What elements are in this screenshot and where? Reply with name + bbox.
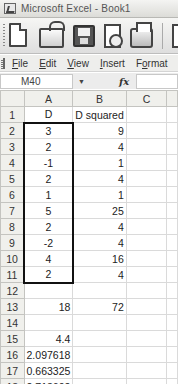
cell-a6[interactable]: 1	[24, 187, 73, 203]
cell-a13[interactable]: 18	[24, 299, 73, 315]
cell-a10[interactable]: 4	[24, 251, 73, 267]
cell-a16[interactable]: 2.097618	[24, 347, 73, 363]
cell-b14[interactable]	[73, 315, 126, 331]
excel-app-icon[interactable]	[4, 3, 16, 14]
cell-b17[interactable]	[73, 363, 126, 379]
cell-a7[interactable]: 5	[24, 203, 73, 219]
column-header-d-partial[interactable]	[167, 91, 178, 107]
cell-d2[interactable]	[167, 123, 178, 139]
row-header[interactable]: 13	[1, 299, 25, 315]
row-header[interactable]: 2	[1, 123, 25, 139]
cell-d15[interactable]	[167, 331, 178, 347]
cell-d8[interactable]	[167, 219, 178, 235]
cell-d4[interactable]	[167, 155, 178, 171]
row-header[interactable]: 4	[1, 155, 25, 171]
menu-format[interactable]: Format	[136, 58, 168, 69]
row-header[interactable]: 17	[1, 363, 25, 379]
row-header[interactable]: 5	[1, 171, 25, 187]
cell-c15[interactable]	[126, 331, 167, 347]
cell-a1[interactable]: D	[24, 107, 73, 123]
cell-b9[interactable]: 4	[73, 235, 126, 251]
row-header[interactable]: 6	[1, 187, 25, 203]
cell-b7[interactable]: 25	[73, 203, 126, 219]
row-header[interactable]: 7	[1, 203, 25, 219]
open-folder-icon[interactable]	[39, 28, 64, 48]
menu-file[interactable]: File	[12, 58, 28, 69]
row-header[interactable]: 8	[1, 219, 25, 235]
cell-c9[interactable]	[126, 235, 167, 251]
cell-a17[interactable]: 0.663325	[24, 363, 73, 379]
cell-d5[interactable]	[167, 171, 178, 187]
cell-d3[interactable]	[167, 139, 178, 155]
cell-b10[interactable]: 16	[73, 251, 126, 267]
cell-c3[interactable]	[126, 139, 167, 155]
cell-c12[interactable]	[126, 283, 167, 299]
cell-a4[interactable]: -1	[24, 155, 73, 171]
column-header-b[interactable]: B	[73, 91, 126, 107]
cell-c5[interactable]	[126, 171, 167, 187]
cell-a8[interactable]: 2	[24, 219, 73, 235]
cell-b1[interactable]: D squared	[73, 107, 126, 123]
cell-c8[interactable]	[126, 219, 167, 235]
cell-c16[interactable]	[126, 347, 167, 363]
cell-d16[interactable]	[167, 347, 178, 363]
cell-a9[interactable]: -2	[24, 235, 73, 251]
toolbar-grip-handle[interactable]	[3, 24, 5, 48]
cell-c4[interactable]	[126, 155, 167, 171]
cell-b3[interactable]: 4	[73, 139, 126, 155]
row-header[interactable]: 11	[1, 267, 25, 283]
print-icon[interactable]	[130, 28, 153, 48]
cell-b13[interactable]: 72	[73, 299, 126, 315]
cell-b2[interactable]: 9	[73, 123, 126, 139]
cell-c13[interactable]	[126, 299, 167, 315]
cell-a15[interactable]: 4.4	[24, 331, 73, 347]
cell-b11[interactable]: 4	[73, 267, 126, 283]
row-header[interactable]: 1	[1, 107, 25, 123]
workbook-control-icon[interactable]	[3, 58, 5, 69]
formula-input[interactable]	[136, 74, 178, 89]
cell-d18[interactable]	[167, 379, 178, 384]
cell-a2[interactable]: 3	[24, 123, 73, 139]
row-header[interactable]: 3	[1, 139, 25, 155]
row-header[interactable]: 14	[1, 315, 25, 331]
cell-a18[interactable]: 2.713602	[24, 379, 73, 384]
cell-b8[interactable]: 4	[73, 219, 126, 235]
cell-a5[interactable]: 2	[24, 171, 73, 187]
cell-d17[interactable]	[167, 363, 178, 379]
save-disk-icon[interactable]	[73, 25, 94, 47]
cell-b12[interactable]	[73, 283, 126, 299]
row-header[interactable]: 16	[1, 347, 25, 363]
cell-c14[interactable]	[126, 315, 167, 331]
cell-c10[interactable]	[126, 251, 167, 267]
cell-a11[interactable]: 2	[24, 267, 73, 283]
menu-edit[interactable]: Edit	[39, 58, 56, 69]
cell-c7[interactable]	[126, 203, 167, 219]
cell-d11[interactable]	[167, 267, 178, 283]
row-header[interactable]: 18	[1, 379, 25, 384]
cell-b4[interactable]: 1	[73, 155, 126, 171]
cell-b5[interactable]: 4	[73, 171, 126, 187]
row-header[interactable]: 10	[1, 251, 25, 267]
print-preview-icon[interactable]	[104, 24, 121, 48]
column-header-c[interactable]: C	[126, 91, 167, 107]
cell-d13[interactable]	[167, 299, 178, 315]
cell-b16[interactable]	[73, 347, 126, 363]
cell-c2[interactable]	[126, 123, 167, 139]
menu-view[interactable]: View	[67, 58, 89, 69]
cell-b6[interactable]: 1	[73, 187, 126, 203]
cell-d9[interactable]	[167, 235, 178, 251]
cell-c11[interactable]	[126, 267, 167, 283]
select-all-corner[interactable]	[1, 91, 25, 107]
cell-a12[interactable]	[24, 283, 73, 299]
insert-function-icon[interactable]: fx	[119, 76, 129, 87]
cell-d6[interactable]	[167, 187, 178, 203]
cell-b15[interactable]	[73, 331, 126, 347]
row-header[interactable]: 9	[1, 235, 25, 251]
cell-d1[interactable]	[167, 107, 178, 123]
cell-c17[interactable]	[126, 363, 167, 379]
column-header-a[interactable]: A	[24, 91, 73, 107]
cell-d10[interactable]	[167, 251, 178, 267]
cell-c6[interactable]	[126, 187, 167, 203]
name-box[interactable]: M40	[0, 74, 73, 89]
row-header[interactable]: 15	[1, 331, 25, 347]
